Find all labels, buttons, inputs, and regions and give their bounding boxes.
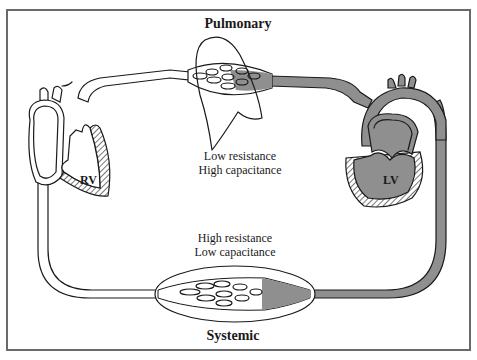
systemic-capillary-bed [155,266,315,322]
pulmonary-vein [270,76,372,108]
rv-label: RV [80,173,97,187]
pulmonary-capillary-bed [188,37,272,150]
right-heart: RV [29,86,110,196]
systemic-venous-return [38,182,160,298]
systemic-property-resistance: High resistance [198,231,272,245]
lv-label: LV [383,173,399,187]
systemic-title: Systemic [207,328,260,343]
diagram-canvas: RV LV Pulmonary Low resistance High capa… [0,0,477,360]
circulation-diagram: RV LV Pulmonary Low resistance High capa… [0,0,477,360]
pulmonary-title: Pulmonary [205,16,272,31]
pulmonary-property-resistance: Low resistance [204,149,276,163]
pulmonary-property-capacitance: High capacitance [199,163,282,177]
pulmonary-branch [62,82,72,86]
pulmonary-artery [78,70,190,102]
systemic-property-capacitance: Low capacitance [195,245,276,259]
